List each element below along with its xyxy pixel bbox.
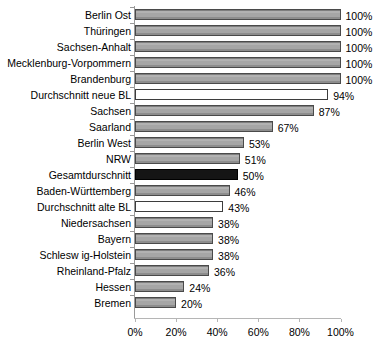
category-label: Gesamtdurschnitt (49, 167, 131, 183)
category-label: NRW (106, 151, 131, 167)
category-label: Sachsen-Anhalt (57, 39, 131, 55)
bar-row: Bayern38% (0, 231, 383, 247)
bar-row: Bremen20% (0, 295, 383, 311)
bar-track: 87% (135, 105, 383, 117)
bar-row: Hessen24% (0, 279, 383, 295)
bar-row: Rheinland-Pfalz36% (0, 263, 383, 279)
bar-track: 24% (135, 281, 383, 293)
bar-track: 38% (135, 249, 383, 261)
bar (135, 249, 213, 260)
bar-row: Berlin Ost100% (0, 7, 383, 23)
bar (135, 169, 238, 180)
x-axis-tick-label: 40% (207, 325, 228, 339)
bar-value-label: 100% (346, 41, 373, 56)
bar-track: 50% (135, 169, 383, 181)
y-axis-tick (130, 279, 134, 280)
bar (135, 137, 244, 148)
x-axis-tick (135, 319, 136, 322)
bar-value-label: 36% (214, 265, 235, 280)
bar (135, 297, 176, 308)
bar-value-label: 20% (181, 297, 202, 312)
bar-value-label: 100% (346, 57, 373, 72)
bar-track: 67% (135, 121, 383, 133)
category-label: Niedersachsen (61, 215, 131, 231)
y-axis-tick (130, 295, 134, 296)
bar-value-label: 53% (249, 137, 270, 152)
bar (135, 121, 273, 132)
y-axis-tick (130, 55, 134, 56)
bar-track: 94% (135, 89, 383, 101)
bar-value-label: 100% (346, 73, 373, 88)
bar-track: 20% (135, 297, 383, 309)
bar-track: 38% (135, 233, 383, 245)
category-label: Durchschnitt neue BL (31, 87, 131, 103)
x-axis-line (134, 318, 341, 319)
bar (135, 89, 328, 100)
x-axis-tick (176, 319, 177, 322)
bar-value-label: 43% (228, 201, 249, 216)
y-axis-tick (130, 167, 134, 168)
x-axis-tick (258, 319, 259, 322)
bar-value-label: 38% (218, 249, 239, 264)
category-label: Bayern (98, 231, 131, 247)
bar-row: Baden-Württemberg46% (0, 183, 383, 199)
category-label: Berlin Ost (85, 7, 131, 23)
bar (135, 153, 240, 164)
y-axis-tick (130, 263, 134, 264)
bar-row: Thüringen100% (0, 23, 383, 39)
bar-row: Berlin West53% (0, 135, 383, 151)
bar-value-label: 38% (218, 217, 239, 232)
bar-row: Niedersachsen38% (0, 215, 383, 231)
y-axis-tick (130, 103, 134, 104)
bar-value-label: 100% (346, 25, 373, 40)
bar (135, 57, 341, 68)
y-axis-tick (130, 199, 134, 200)
bar-track: 100% (135, 57, 383, 69)
bar (135, 265, 209, 276)
bar-row: Sachsen87% (0, 103, 383, 119)
category-label: Sachsen (90, 103, 131, 119)
bar (135, 233, 213, 244)
y-axis-tick (130, 87, 134, 88)
bar (135, 105, 314, 116)
bar-track: 36% (135, 265, 383, 277)
y-axis-tick (130, 39, 134, 40)
y-axis-tick (130, 231, 134, 232)
category-label: Bremen (94, 295, 131, 311)
category-label: Brandenburg (70, 71, 131, 87)
bar-row: Schlesw ig-Holstein38% (0, 247, 383, 263)
bar-track: 100% (135, 41, 383, 53)
x-axis-tick-label: 80% (289, 325, 310, 339)
bar-row: Durchschnitt alte BL43% (0, 199, 383, 215)
bar-value-label: 51% (245, 153, 266, 168)
bar-chart: Berlin Ost100%Thüringen100%Sachsen-Anhal… (0, 0, 383, 350)
category-label: Hessen (95, 279, 131, 295)
bar (135, 25, 341, 36)
x-axis-tick (299, 319, 300, 322)
bar (135, 185, 230, 196)
y-axis-tick (130, 23, 134, 24)
bar-track: 100% (135, 73, 383, 85)
bar (135, 201, 223, 212)
bar-track: 38% (135, 217, 383, 229)
bar-track: 43% (135, 201, 383, 213)
bar-track: 53% (135, 137, 383, 149)
x-axis-tick-label: 0% (127, 325, 142, 339)
bar-row: Saarland67% (0, 119, 383, 135)
bar-value-label: 100% (346, 9, 373, 24)
y-axis-tick (130, 7, 134, 8)
category-label: Baden-Württemberg (36, 183, 131, 199)
bar-track: 46% (135, 185, 383, 197)
bar-value-label: 87% (319, 105, 340, 120)
plot-area: Berlin Ost100%Thüringen100%Sachsen-Anhal… (0, 7, 383, 325)
y-axis-tick (130, 119, 134, 120)
bar-value-label: 38% (218, 233, 239, 248)
bar-row: Mecklenburg-Vorpommern100% (0, 55, 383, 71)
x-axis-tick-label: 100% (327, 325, 354, 339)
bar-track: 51% (135, 153, 383, 165)
bar-row: Brandenburg100% (0, 71, 383, 87)
category-label: Mecklenburg-Vorpommern (7, 55, 131, 71)
bar-row: Gesamtdurschnitt50% (0, 167, 383, 183)
x-axis-tick-label: 20% (166, 325, 187, 339)
bar (135, 281, 184, 292)
